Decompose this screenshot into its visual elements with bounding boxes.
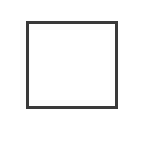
square-shape — [26, 21, 118, 109]
